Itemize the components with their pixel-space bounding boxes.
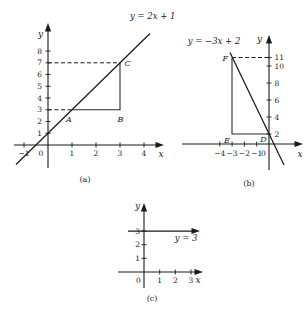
equation-label-c: y = 3 xyxy=(174,233,198,243)
y-tick-label: 10 xyxy=(275,62,285,71)
x-tick-label: 2 xyxy=(173,276,178,285)
panel-a-x-tick-labels: −1 0 1 2 3 4 xyxy=(18,149,146,158)
x-axis-label: x xyxy=(158,149,163,159)
panel-c-x-tick-labels: 0 1 2 3 xyxy=(136,276,194,285)
y-axis-label: y xyxy=(256,34,263,44)
y-tick-label: 2 xyxy=(135,240,140,249)
equation-label-b: y = −3x + 2 xyxy=(187,36,241,46)
x-axis-arrow-icon xyxy=(295,141,304,147)
x-tick-label: 3 xyxy=(118,149,123,158)
y-tick-label: 4 xyxy=(37,94,42,103)
x-tick-label: −1 xyxy=(18,149,29,158)
panel-a-y-tick-labels: 1 2 3 4 5 6 7 8 xyxy=(37,47,42,138)
x-tick-label: 0 xyxy=(136,276,141,285)
panel-caption-b: (b) xyxy=(243,179,254,188)
y-tick-label: 8 xyxy=(275,79,280,88)
equation-label-a: y = 2x + 1 xyxy=(129,11,175,21)
y-tick-label: 7 xyxy=(37,58,42,67)
x-tick-label: 3 xyxy=(189,276,194,285)
point-label-E: E xyxy=(223,136,230,145)
y-axis-arrow-icon xyxy=(266,35,272,44)
y-axis-label: y xyxy=(37,29,44,39)
panel-b-plot: −4 −3 −2 −1 0 2 4 6 8 10 11 F E D y = −3… xyxy=(176,28,308,190)
y-axis-label: y xyxy=(134,201,141,211)
y-tick-label: 2 xyxy=(37,117,42,126)
panel-b-y-tick-labels: 2 4 6 8 10 11 xyxy=(275,53,285,139)
point-label-D: D xyxy=(259,135,267,144)
y-tick-label: 1 xyxy=(135,254,140,263)
y-tick-label: 6 xyxy=(275,96,280,105)
y-tick-label: 1 xyxy=(37,129,42,138)
y-tick-label: 4 xyxy=(275,113,280,122)
y-tick-label: 3 xyxy=(135,227,140,236)
panel-caption-c: (c) xyxy=(147,294,158,303)
panel-c-y-tick-labels: 1 2 3 xyxy=(135,227,140,263)
panel-a-plot: −1 0 1 2 3 4 1 2 3 4 5 6 7 8 A B C y = 2… xyxy=(4,6,180,192)
x-tick-label: 4 xyxy=(142,149,147,158)
panel-c-plot: 0 1 2 3 1 2 3 y = 3 y x (c) xyxy=(88,198,228,312)
panel-b-x-tick-labels: −4 −3 −2 −1 0 xyxy=(214,149,266,158)
y-tick-label: 3 xyxy=(37,105,42,114)
y-tick-label: 11 xyxy=(275,53,285,62)
x-tick-label: 0 xyxy=(261,149,266,158)
point-label-A: A xyxy=(65,115,72,124)
y-tick-label: 5 xyxy=(37,82,42,91)
three-panel-line-graph-figure: −1 0 1 2 3 4 1 2 3 4 5 6 7 8 A B C y = 2… xyxy=(0,0,308,317)
panel-caption-a: (a) xyxy=(79,175,90,184)
x-tick-label: 2 xyxy=(94,149,99,158)
x-tick-label: 1 xyxy=(70,149,75,158)
y-tick-label: 2 xyxy=(275,130,280,139)
y-tick-label: 6 xyxy=(37,70,42,79)
point-label-B: B xyxy=(117,115,124,124)
x-tick-label: −2 xyxy=(239,149,250,158)
y-axis-arrow-icon xyxy=(141,203,147,212)
x-axis-label: x xyxy=(195,275,200,285)
x-tick-label: 0 xyxy=(39,149,44,158)
x-axis-label: x xyxy=(297,149,302,159)
x-tick-label: −4 xyxy=(214,149,225,158)
x-axis-arrow-icon xyxy=(156,142,165,148)
point-label-F: F xyxy=(221,54,228,63)
point-label-C: C xyxy=(125,59,131,68)
x-tick-label: 1 xyxy=(157,276,162,285)
y-tick-label: 8 xyxy=(37,47,42,56)
x-tick-label: −3 xyxy=(227,149,238,158)
y-axis-arrow-icon xyxy=(45,23,51,32)
